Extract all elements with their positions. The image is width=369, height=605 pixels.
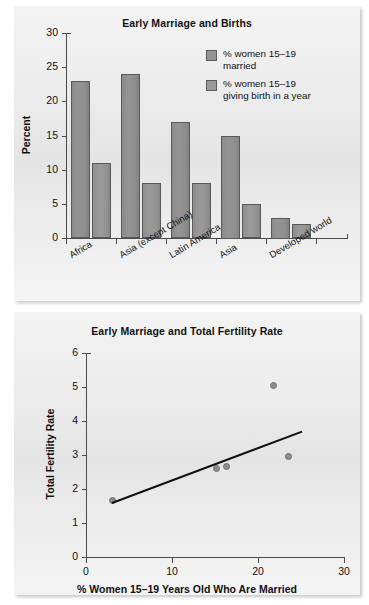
scatter-chart-data-point (223, 463, 230, 470)
figure-page: Early Marriage and Births Percent 051015… (0, 0, 369, 605)
scatter-chart-x-axis (86, 557, 345, 558)
scatter-chart-y-tick (82, 523, 86, 524)
bar-chart-y-tick-label: 30 (32, 27, 58, 37)
bar-chart-y-tick (62, 170, 66, 171)
bar-chart-y-tick-label: 15 (32, 130, 58, 140)
bar-chart-bar (92, 163, 111, 238)
bar-chart-y-tick-label: 25 (32, 61, 58, 71)
scatter-chart-data-point (270, 382, 277, 389)
scatter-chart-y-tick (82, 489, 86, 490)
scatter-chart-y-tick-label: 6 (54, 347, 78, 357)
scatter-chart-y-tick (82, 421, 86, 422)
scatter-chart-x-tick-label: 30 (332, 566, 356, 576)
bar-chart-x-tick (216, 239, 217, 244)
scatter-chart-y-tick-label: 4 (54, 415, 78, 425)
bar-chart-legend-label: % women 15–19 married (223, 48, 311, 71)
bar-chart-x-tick (166, 239, 167, 244)
bar-chart-x-tick (116, 239, 117, 244)
bar-chart-y-axis (66, 33, 67, 239)
scatter-chart-y-tick (82, 387, 86, 388)
bar-chart-y-axis-end-cap (66, 33, 71, 34)
bar-chart-bar (71, 81, 90, 238)
scatter-chart-data-point (213, 465, 220, 472)
bar-chart-x-tick (316, 239, 317, 244)
scatter-chart-data-point (285, 453, 292, 460)
scatter-chart-x-tick-label: 0 (74, 566, 98, 576)
bar-chart-x-tick (266, 239, 267, 244)
bar-chart-panel: Early Marriage and Births Percent 051015… (14, 6, 360, 301)
scatter-chart-y-axis-end-cap (86, 353, 91, 354)
bar-chart-bar (221, 136, 240, 239)
bar-chart-x-tick (66, 239, 67, 244)
bar-chart-y-tick-label: 20 (32, 95, 58, 105)
bar-chart-category-label: Africa (67, 238, 93, 260)
scatter-chart-x-tick-label: 10 (160, 566, 184, 576)
bar-chart-legend-item: % women 15–19 giving birth in a year (206, 78, 311, 102)
bar-chart-legend: % women 15–19 married% women 15–19 givin… (206, 48, 311, 108)
bar-chart-bar (271, 218, 290, 239)
bar-chart-y-tick (62, 136, 66, 137)
bar-chart-x-axis-end-cap (347, 234, 348, 239)
scatter-chart-y-tick-label: 0 (54, 551, 78, 561)
legend-swatch-icon (206, 80, 217, 91)
scatter-chart-panel: Early Marriage and Total Fertility Rate … (14, 312, 360, 595)
scatter-chart-y-tick-label: 5 (54, 381, 78, 391)
bar-chart-y-axis-title: Percent (20, 95, 32, 175)
scatter-chart-x-tick (86, 558, 87, 563)
scatter-chart-y-axis (86, 353, 87, 558)
bar-chart-legend-label: % women 15–19 giving birth in a year (223, 78, 311, 101)
scatter-chart-x-tick (344, 558, 345, 563)
bar-chart-y-tick-label: 5 (32, 198, 58, 208)
bar-chart-y-tick (62, 204, 66, 205)
bar-chart-legend-item: % women 15–19 married (206, 48, 311, 72)
bar-chart-category-label: Asia (217, 241, 239, 260)
bar-chart-y-tick-label: 10 (32, 164, 58, 174)
bar-chart-bar (242, 204, 261, 238)
bar-chart-y-tick (62, 67, 66, 68)
legend-swatch-icon (206, 50, 217, 61)
scatter-chart-y-tick-label: 3 (54, 449, 78, 459)
scatter-chart-y-tick-label: 1 (54, 517, 78, 527)
bar-chart-bar (121, 74, 140, 238)
scatter-chart-title: Early Marriage and Total Fertility Rate (14, 325, 360, 337)
bar-chart-y-tick-label: 0 (32, 232, 58, 242)
bar-chart-y-tick (62, 101, 66, 102)
scatter-chart-y-tick-label: 2 (54, 483, 78, 493)
scatter-chart-x-axis-title: % Women 15–19 Years Old Who Are Married (14, 583, 360, 595)
scatter-chart-x-tick (258, 558, 259, 563)
bar-chart-title: Early Marriage and Births (14, 17, 360, 29)
scatter-chart-x-tick-label: 20 (246, 566, 270, 576)
scatter-chart-x-tick (172, 558, 173, 563)
scatter-chart-trend-line (111, 431, 302, 504)
scatter-chart-y-tick (82, 455, 86, 456)
